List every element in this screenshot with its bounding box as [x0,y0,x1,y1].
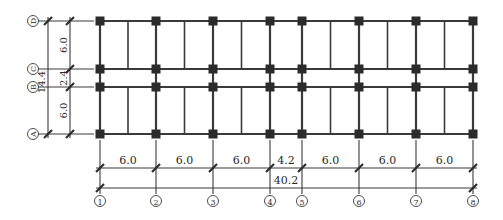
dimension-ticks [44,17,477,192]
column [469,83,478,92]
axis-number-label: 5 [299,198,304,207]
axis-letter-label: C [29,66,38,72]
column [266,130,275,139]
column [96,65,105,74]
column [152,17,161,26]
column [355,83,364,92]
axis-letter-label: D [29,18,38,24]
bay-dimension-label: 6.0 [379,154,397,167]
column [209,83,218,92]
column [152,130,161,139]
column [355,65,364,74]
axis-number-label: 7 [413,198,418,207]
column [96,130,105,139]
column [209,130,218,139]
column [412,65,421,74]
axis-number-label: 4 [267,198,272,207]
axis-number-label: 2 [153,198,158,207]
column [355,130,364,139]
beams [100,21,473,134]
span-dimension-label: 2.4 [58,70,69,86]
axis-number-label: 3 [210,198,215,207]
column [469,17,478,26]
column [298,17,307,26]
axis-number-label: 6 [356,198,361,207]
axis-number-label: 1 [97,198,102,207]
bay-dimension-label: 6.0 [322,154,340,167]
bay-dimension-label: 6.0 [119,154,137,167]
column [266,83,275,92]
span-dimension-label: 6.0 [58,103,69,119]
axis-number-label: 8 [470,198,475,207]
column [412,130,421,139]
column [96,17,105,26]
column [412,17,421,26]
column [469,130,478,139]
structural-grid-plan: 6.06.06.04.26.06.06.040.26.02.46.014.4 1… [0,0,503,220]
dimension-lines [38,17,477,194]
axis-letter-label: B [29,84,38,90]
total-length-label: 40.2 [274,174,299,187]
span-dimension-label: 6.0 [58,37,69,53]
dimension-labels: 6.06.06.04.26.06.06.040.26.02.46.014.4 [36,37,453,187]
bay-dimension-label: 6.0 [233,154,251,167]
column [412,83,421,92]
bay-dimension-label: 4.2 [277,154,295,167]
axis-letter-label: A [29,131,38,138]
column [209,65,218,74]
column [298,130,307,139]
bay-dimension-label: 6.0 [176,154,194,167]
column [355,17,364,26]
column [266,65,275,74]
column [96,83,105,92]
secondary-beams [128,21,445,134]
column [298,83,307,92]
column [298,65,307,74]
column [266,17,275,26]
axis-labels: 12345678DCBA [28,16,479,208]
column [209,17,218,26]
bay-dimension-label: 6.0 [436,154,454,167]
column [152,83,161,92]
column [152,65,161,74]
columns [96,17,478,139]
column [469,65,478,74]
